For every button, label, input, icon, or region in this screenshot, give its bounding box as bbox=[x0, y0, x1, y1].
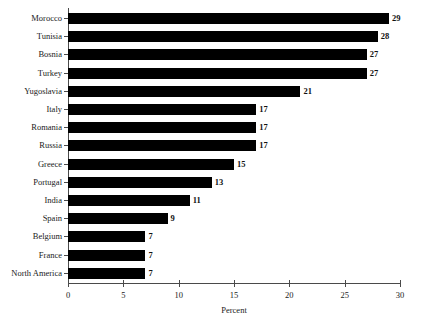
bar bbox=[68, 250, 145, 261]
bar-row: France7 bbox=[68, 250, 400, 261]
category-label: Turkey bbox=[38, 68, 62, 79]
category-label: Morocco bbox=[31, 13, 62, 24]
plot-area: Morocco29Tunisia28Bosnia27Turkey27Yugosl… bbox=[68, 8, 400, 283]
bar bbox=[68, 213, 168, 224]
category-label: France bbox=[39, 250, 62, 261]
bar bbox=[68, 49, 367, 60]
bar-value-label: 17 bbox=[259, 140, 268, 151]
bar-value-label: 13 bbox=[215, 177, 224, 188]
bar-value-label: 7 bbox=[148, 231, 152, 242]
x-axis-tick-label: 30 bbox=[396, 290, 405, 300]
bar-value-label: 29 bbox=[392, 13, 401, 24]
bar-value-label: 9 bbox=[171, 213, 175, 224]
category-label: Bosnia bbox=[38, 49, 62, 60]
category-label: Italy bbox=[46, 104, 62, 115]
bar-row: Portugal13 bbox=[68, 177, 400, 188]
bar-row: Yugoslavia21 bbox=[68, 86, 400, 97]
category-label: Russia bbox=[39, 140, 62, 151]
category-label: Greece bbox=[38, 159, 62, 170]
bar-value-label: 28 bbox=[381, 31, 390, 42]
bar-value-label: 17 bbox=[259, 122, 268, 133]
bar-value-label: 7 bbox=[148, 268, 152, 279]
bar-row: Romania17 bbox=[68, 122, 400, 133]
bar-row: North America7 bbox=[68, 268, 400, 279]
bar-row: Italy17 bbox=[68, 104, 400, 115]
category-label: Yugoslavia bbox=[24, 86, 62, 97]
bar-row: India11 bbox=[68, 195, 400, 206]
bar bbox=[68, 140, 256, 151]
category-label: Romania bbox=[31, 122, 62, 133]
bar bbox=[68, 104, 256, 115]
bar bbox=[68, 13, 389, 24]
bar-row: Belgium7 bbox=[68, 231, 400, 242]
bar-row: Tunisia28 bbox=[68, 31, 400, 42]
bar-row: Morocco29 bbox=[68, 13, 400, 24]
bar-chart: Morocco29Tunisia28Bosnia27Turkey27Yugosl… bbox=[0, 0, 421, 326]
x-axis-tick-upper bbox=[179, 280, 180, 284]
category-label: Spain bbox=[43, 213, 62, 224]
bar bbox=[68, 68, 367, 79]
bar-row: Bosnia27 bbox=[68, 49, 400, 60]
x-axis-tick-upper bbox=[68, 280, 69, 284]
bar-row: Russia17 bbox=[68, 140, 400, 151]
x-axis-tick-upper bbox=[234, 280, 235, 284]
x-axis-tick-label: 25 bbox=[340, 290, 349, 300]
bar-row: Spain9 bbox=[68, 213, 400, 224]
category-label: Tunisia bbox=[37, 31, 62, 42]
category-label: India bbox=[45, 195, 62, 206]
x-axis-tick-label: 15 bbox=[230, 290, 239, 300]
bar-value-label: 7 bbox=[148, 250, 152, 261]
bar bbox=[68, 268, 145, 279]
bar-value-label: 27 bbox=[370, 49, 379, 60]
bar bbox=[68, 122, 256, 133]
bar-value-label: 21 bbox=[303, 86, 312, 97]
bar bbox=[68, 177, 212, 188]
bar-value-label: 17 bbox=[259, 104, 268, 115]
bar bbox=[68, 31, 378, 42]
x-axis-tick-label: 20 bbox=[285, 290, 294, 300]
x-axis-tick-label: 10 bbox=[174, 290, 183, 300]
bar-value-label: 27 bbox=[370, 68, 379, 79]
x-axis-tick-upper bbox=[289, 280, 290, 284]
x-axis-tick-upper bbox=[345, 280, 346, 284]
bar bbox=[68, 159, 234, 170]
bar-row: Greece15 bbox=[68, 159, 400, 170]
bar-value-label: 15 bbox=[237, 159, 246, 170]
x-axis-title: Percent bbox=[221, 305, 247, 315]
bar bbox=[68, 86, 300, 97]
bar bbox=[68, 231, 145, 242]
category-label: Portugal bbox=[33, 177, 62, 188]
x-axis-tick-label: 0 bbox=[66, 290, 70, 300]
category-label: Belgium bbox=[33, 231, 62, 242]
bar-row: Turkey27 bbox=[68, 68, 400, 79]
x-axis-tick-upper bbox=[400, 280, 401, 284]
category-label: North America bbox=[11, 268, 62, 279]
bar bbox=[68, 195, 190, 206]
x-axis-tick-upper bbox=[123, 280, 124, 284]
x-axis-tick-label: 5 bbox=[121, 290, 125, 300]
bar-value-label: 11 bbox=[193, 195, 201, 206]
